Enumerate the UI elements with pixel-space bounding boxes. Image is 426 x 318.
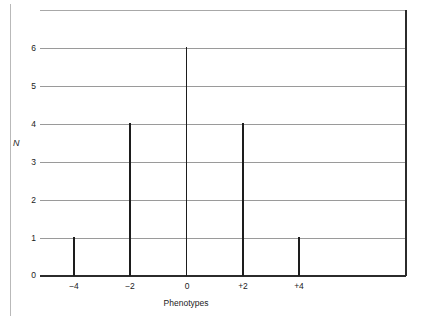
ytick-label-1: 1 [22,234,36,243]
ytick-label-6: 6 [22,44,36,53]
gridline-top [40,10,406,11]
xtick-label-plus-4: +4 [284,282,314,291]
bar-plus-4 [298,237,300,276]
xtick-label-minus-4: −4 [59,282,89,291]
gridline-4 [40,124,406,125]
ytick-label-0: 0 [22,271,36,280]
ytick-label-3: 3 [22,158,36,167]
x-axis-title: Phenotypes [126,299,246,308]
gridline-5 [40,86,406,87]
bar-minus-2 [129,123,131,276]
plot-area: 6 5 4 3 2 1 0 −4 −2 0 +2 +4 N Phenotypes [0,0,426,318]
gridline-2 [40,200,406,201]
xtick-label-0: 0 [172,282,202,291]
bar-0 [186,47,188,276]
xtick-label-minus-2: −2 [115,282,145,291]
ytick-label-5: 5 [22,82,36,91]
ytick-label-4: 4 [22,120,36,129]
gridline-6 [40,48,406,49]
right-frame-line [405,10,407,276]
chart-figure: 6 5 4 3 2 1 0 −4 −2 0 +2 +4 N Phenotypes [0,0,426,318]
bar-minus-4 [73,237,75,276]
xtick-label-plus-2: +2 [228,282,258,291]
x-axis-line [40,275,406,277]
gridline-3 [40,162,406,163]
ytick-label-2: 2 [22,196,36,205]
bar-plus-2 [242,123,244,276]
gridline-1 [40,238,406,239]
y-axis-title: N [13,139,20,148]
